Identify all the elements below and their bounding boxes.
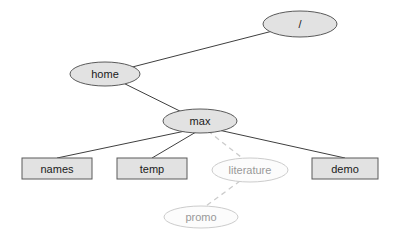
edge-max-literature: [208, 131, 241, 157]
node-promo-label: promo: [185, 211, 216, 223]
node-home-label: home: [91, 68, 119, 80]
node-literature-label: literature: [229, 164, 272, 176]
filesystem-tree-figure: /homemaxnamestempliteraturedemopromo: [0, 0, 400, 237]
edge-max-temp: [152, 132, 196, 158]
edge-max-demo: [214, 129, 345, 158]
node-temp-label: temp: [140, 163, 164, 175]
node-names-label: names: [40, 163, 74, 175]
edge-max-names: [57, 130, 190, 158]
filesystem-tree-diagram: /homemaxnamestempliteraturedemopromo: [0, 0, 400, 237]
node-demo-label: demo: [331, 163, 359, 175]
edge-literature-promo: [206, 181, 240, 206]
node-max-label: max: [190, 115, 211, 127]
